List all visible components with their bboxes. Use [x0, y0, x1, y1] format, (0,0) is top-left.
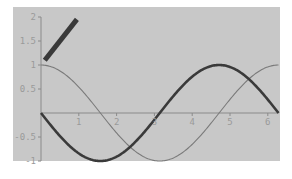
plot-canvas: 123456-1-0.50.511.52 — [0, 0, 292, 179]
plot-background — [13, 7, 280, 161]
x-tick-label: 5 — [227, 117, 232, 127]
y-tick-label: -1 — [25, 156, 36, 166]
x-tick-label: 3 — [152, 117, 157, 127]
y-tick-label: 1 — [31, 60, 36, 70]
x-tick-label: 6 — [265, 117, 270, 127]
y-tick-label: 0.5 — [20, 84, 36, 94]
y-tick-label: 1.5 — [20, 36, 36, 46]
y-tick-label: -0.5 — [14, 132, 36, 142]
y-tick-label: 2 — [31, 12, 36, 22]
x-tick-label: 2 — [114, 117, 119, 127]
x-tick-label: 4 — [189, 117, 194, 127]
x-tick-label: 1 — [76, 117, 81, 127]
